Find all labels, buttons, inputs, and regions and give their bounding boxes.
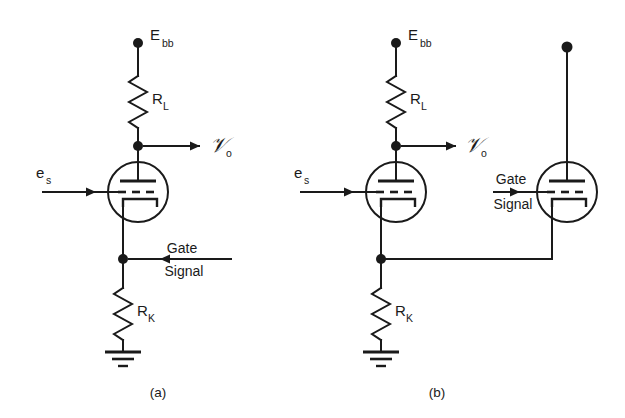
tube-cathode-a xyxy=(123,199,157,207)
figure-root: E bb R L 𝒱 o e s xyxy=(0,0,625,418)
gate-signal-label-line1-b: Gate xyxy=(496,171,527,187)
cathode-resistor-b xyxy=(372,288,390,340)
plate-resistor-label-sub-a: L xyxy=(163,100,169,112)
output-arrow-head-b xyxy=(446,142,456,151)
cathode-resistor-label-sub-a: K xyxy=(148,312,155,324)
plate-resistor-label-sub-b: L xyxy=(421,100,427,112)
supply-label-sub-a: bb xyxy=(162,37,174,49)
supply-label-sub-b: bb xyxy=(420,37,432,49)
cathode-node-dot-b xyxy=(376,254,386,264)
cathode-resistor-label-a: R xyxy=(137,302,148,319)
panel-a: E bb R L 𝒱 o e s xyxy=(36,26,234,400)
output-node-dot-b xyxy=(391,141,401,151)
tube-cathode-b1 xyxy=(381,199,415,207)
input-label-sub-a: s xyxy=(46,174,51,186)
gate-signal-label-line2-b: Signal xyxy=(494,196,533,212)
gate-signal-label-line2-a: Signal xyxy=(165,263,204,279)
cathode-resistor-a xyxy=(114,288,132,340)
supply-label-b: E xyxy=(408,26,418,43)
gate-signal-label-line1-a: Gate xyxy=(167,240,198,256)
supply-terminal-dot-b xyxy=(391,38,401,48)
output-label-sub-a: o xyxy=(226,147,232,159)
output-arrow-head-a xyxy=(190,142,200,151)
output-label-sub-b: o xyxy=(481,147,487,159)
input-label-b: e xyxy=(294,164,302,181)
cathode-resistor-label-sub-b: K xyxy=(406,312,413,324)
terminal-dot-b2 xyxy=(562,42,573,53)
input-arrow-head-a xyxy=(86,188,96,197)
panel-caption-b: (b) xyxy=(429,385,446,400)
cathode-resistor-label-b: R xyxy=(395,302,406,319)
supply-terminal-dot-a xyxy=(133,38,143,48)
output-node-dot-a xyxy=(133,141,143,151)
wire-cathode-coupling-b xyxy=(386,207,552,259)
plate-resistor-a xyxy=(129,76,147,128)
circuit-diagram: E bb R L 𝒱 o e s xyxy=(0,0,625,418)
cathode-node-dot-a xyxy=(118,254,128,264)
panel-b: E bb R L 𝒱 o e s R K xyxy=(294,26,597,400)
input-label-a: e xyxy=(36,164,44,181)
supply-label-a: E xyxy=(150,26,160,43)
plate-resistor-label-a: R xyxy=(152,90,163,107)
plate-resistor-b xyxy=(387,76,405,128)
panel-caption-a: (a) xyxy=(150,385,167,400)
input-label-sub-b: s xyxy=(304,174,309,186)
input-arrow-head-b xyxy=(344,188,354,197)
tube-cathode-b2 xyxy=(552,199,586,207)
plate-resistor-label-b: R xyxy=(410,90,421,107)
